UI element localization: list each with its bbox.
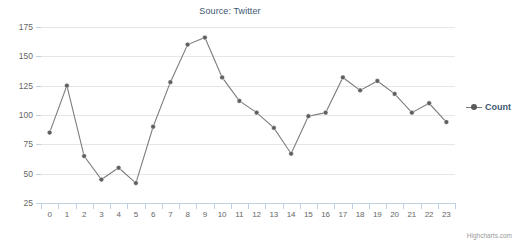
x-axis-tick <box>386 203 387 209</box>
x-axis-tick <box>58 203 59 209</box>
data-point-marker[interactable] <box>133 181 138 186</box>
y-axis-tick <box>36 115 41 116</box>
data-point-marker[interactable] <box>392 91 397 96</box>
series-path <box>50 38 447 183</box>
y-axis-tick-label: 100 <box>0 110 33 120</box>
x-axis-tick-label: 12 <box>252 210 261 219</box>
x-axis-tick-label: 14 <box>287 210 296 219</box>
data-point-marker[interactable] <box>64 83 69 88</box>
x-axis-tick <box>41 203 42 209</box>
chart-container: Source: Twitter 255075100125150175 Count… <box>0 0 516 242</box>
data-point-marker[interactable] <box>99 177 104 182</box>
y-axis-tick <box>36 174 41 175</box>
data-point-marker[interactable] <box>427 101 432 106</box>
x-axis-tick-label: 9 <box>203 210 207 219</box>
data-point-marker[interactable] <box>289 151 294 156</box>
data-point-marker[interactable] <box>340 75 345 80</box>
y-axis-tick-label: 50 <box>0 169 33 179</box>
legend-item-label: Count <box>485 102 511 112</box>
x-axis-tick-label: 6 <box>151 210 155 219</box>
data-point-marker[interactable] <box>271 126 276 131</box>
x-axis-tick <box>265 203 266 209</box>
data-point-marker[interactable] <box>47 130 52 135</box>
line-marker-icon <box>466 102 482 112</box>
x-axis-tick <box>403 203 404 209</box>
x-axis-tick <box>300 203 301 209</box>
data-point-marker[interactable] <box>185 42 190 47</box>
x-axis-tick <box>196 203 197 209</box>
x-axis-tick-label: 10 <box>218 210 227 219</box>
x-axis-tick <box>145 203 146 209</box>
data-point-marker[interactable] <box>220 75 225 80</box>
data-point-marker[interactable] <box>375 79 380 84</box>
x-axis-tick <box>214 203 215 209</box>
x-axis-tick-label: 16 <box>321 210 330 219</box>
plot-area <box>41 27 455 203</box>
x-axis-tick-label: 18 <box>356 210 365 219</box>
x-axis-tick-label: 1 <box>65 210 69 219</box>
data-point-marker[interactable] <box>202 35 207 40</box>
data-point-marker[interactable] <box>168 80 173 85</box>
y-axis-tick <box>36 56 41 57</box>
x-axis-tick <box>438 203 439 209</box>
data-point-marker[interactable] <box>254 110 259 115</box>
x-axis-tick-label: 5 <box>134 210 138 219</box>
x-axis-tick-label: 22 <box>425 210 434 219</box>
x-axis-tick-label: 4 <box>116 210 120 219</box>
y-axis-tick <box>36 144 41 145</box>
data-point-marker[interactable] <box>116 165 121 170</box>
x-axis-tick <box>248 203 249 209</box>
y-axis-tick <box>36 27 41 28</box>
y-axis-tick-label: 25 <box>0 198 33 208</box>
data-point-marker[interactable] <box>306 114 311 119</box>
data-point-marker[interactable] <box>323 110 328 115</box>
data-point-marker[interactable] <box>409 110 414 115</box>
x-axis-tick <box>127 203 128 209</box>
x-axis-tick-label: 20 <box>390 210 399 219</box>
data-point-marker[interactable] <box>237 99 242 104</box>
y-axis-tick-label: 75 <box>0 139 33 149</box>
x-axis-tick-label: 19 <box>373 210 382 219</box>
x-axis-tick-label: 3 <box>99 210 103 219</box>
x-axis-tick <box>352 203 353 209</box>
x-axis-tick <box>231 203 232 209</box>
y-axis-tick-label: 175 <box>0 22 33 32</box>
series-line-count[interactable] <box>41 27 455 203</box>
x-axis-tick-label: 7 <box>168 210 172 219</box>
x-axis-tick-label: 21 <box>407 210 416 219</box>
data-point-marker[interactable] <box>82 154 87 159</box>
x-axis-tick-label: 0 <box>47 210 51 219</box>
x-axis-tick <box>110 203 111 209</box>
data-point-marker[interactable] <box>444 120 449 125</box>
x-axis-tick <box>179 203 180 209</box>
x-axis-tick <box>369 203 370 209</box>
data-point-marker[interactable] <box>151 124 156 129</box>
legend: Count <box>466 102 511 112</box>
chart-title: Source: Twitter <box>0 6 460 16</box>
x-axis-tick <box>162 203 163 209</box>
x-axis-tick-label: 15 <box>304 210 313 219</box>
legend-item-count[interactable]: Count <box>466 102 511 112</box>
x-axis-tick <box>283 203 284 209</box>
x-axis-tick <box>317 203 318 209</box>
x-axis-tick-label: 13 <box>269 210 278 219</box>
x-axis-tick <box>421 203 422 209</box>
x-axis-tick-label: 8 <box>185 210 189 219</box>
x-axis-tick-label: 11 <box>235 210 243 219</box>
x-axis-tick-label: 2 <box>82 210 86 219</box>
y-axis-tick <box>36 86 41 87</box>
x-axis-tick-label: 23 <box>442 210 451 219</box>
x-axis-tick <box>455 203 456 209</box>
data-point-marker[interactable] <box>358 88 363 93</box>
y-axis-tick-label: 125 <box>0 81 33 91</box>
x-axis-tick <box>93 203 94 209</box>
x-axis-tick-label: 17 <box>338 210 347 219</box>
y-axis-tick-label: 150 <box>0 51 33 61</box>
x-axis-tick <box>334 203 335 209</box>
credits-label: Highcharts.com <box>467 232 512 239</box>
x-axis-tick <box>76 203 77 209</box>
